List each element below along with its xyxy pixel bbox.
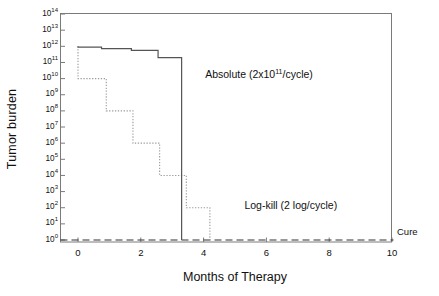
y-tick-label: 103 bbox=[24, 187, 58, 195]
x-tick-label: 4 bbox=[192, 247, 216, 258]
y-axis-ticks bbox=[61, 14, 66, 240]
y-tick-label: 109 bbox=[24, 90, 58, 98]
y-tick-label: 1011 bbox=[24, 58, 58, 66]
y-tick-label: 100 bbox=[24, 236, 58, 244]
cure-label: Cure bbox=[397, 226, 418, 237]
y-tick-label: 108 bbox=[24, 106, 58, 114]
annotation-absolute: Absolute (2x1011/cycle) bbox=[205, 68, 313, 80]
y-tick-label: 1010 bbox=[24, 74, 58, 82]
x-tick-label: 2 bbox=[129, 247, 153, 258]
y-tick-label: 107 bbox=[24, 123, 58, 131]
y-tick-label: 101 bbox=[24, 219, 58, 227]
y-axis-title-text: Tumor burden bbox=[5, 89, 19, 169]
annotation-log-kill: Log-kill (2 log/cycle) bbox=[244, 199, 337, 211]
y-tick-label: 102 bbox=[24, 203, 58, 211]
x-tick-label: 6 bbox=[254, 247, 278, 258]
x-tick-label: 10 bbox=[380, 247, 404, 258]
series-log-kill-curve bbox=[78, 46, 210, 240]
y-axis-title: Tumor burden bbox=[2, 44, 22, 214]
x-axis-ticks bbox=[78, 238, 392, 243]
series-absolute-curve bbox=[78, 46, 182, 240]
y-tick-label: 1013 bbox=[24, 26, 58, 34]
x-tick-label: 0 bbox=[66, 247, 90, 258]
x-axis-title: Months of Therapy bbox=[78, 270, 392, 284]
y-axis-tick-labels: 1001011021031041051061071081091010101110… bbox=[24, 0, 58, 296]
y-tick-label: 1014 bbox=[24, 10, 58, 18]
y-tick-label: 106 bbox=[24, 139, 58, 147]
y-tick-label: 104 bbox=[24, 171, 58, 179]
tumor-burden-chart: 1001011021031041051061071081091010101110… bbox=[0, 0, 439, 296]
y-tick-label: 105 bbox=[24, 155, 58, 163]
plot-frame bbox=[61, 14, 392, 243]
x-tick-label: 8 bbox=[317, 247, 341, 258]
y-tick-label: 1012 bbox=[24, 42, 58, 50]
